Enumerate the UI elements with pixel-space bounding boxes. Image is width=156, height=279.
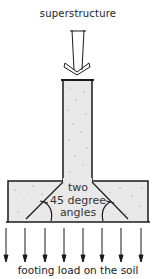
column-stem xyxy=(61,80,94,181)
angle-annotation-line1: two xyxy=(40,182,116,195)
angle-annotation: two 45 degree angles xyxy=(40,182,116,220)
footing-drawing xyxy=(0,0,156,279)
soil-load-arrows xyxy=(4,228,143,262)
superstructure-load-arrow-icon xyxy=(64,30,90,75)
angle-annotation-line3: angles xyxy=(40,207,116,220)
soil-load-label: footing load on the soil xyxy=(0,264,156,276)
